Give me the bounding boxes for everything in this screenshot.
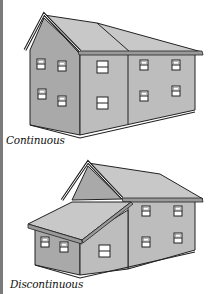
- caption-continuous: Continuous: [6, 134, 65, 146]
- house-illustrations: [0, 0, 212, 294]
- caption-discontinuous: Discontinuous: [10, 278, 83, 290]
- discontinuous-house: [28, 162, 203, 278]
- continuous-house: [25, 14, 203, 138]
